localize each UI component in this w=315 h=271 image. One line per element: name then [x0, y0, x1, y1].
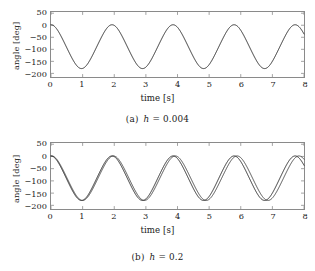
subcaption-a-symbol: h	[142, 114, 150, 124]
x-tick-label: 5	[207, 80, 212, 88]
y-tick-label: 0	[42, 21, 47, 29]
x-tick-labels-b: 012345678	[50, 212, 305, 224]
subcaption-a-tag: (a)	[126, 114, 139, 124]
curve-svg-a	[51, 12, 304, 77]
y-tick-labels-b: 500−50−100−150−200	[0, 142, 47, 210]
y-tick-label: −200	[25, 70, 48, 78]
subfigure-a: angle [deg] 500−50−100−150−200 012345678…	[0, 0, 315, 135]
x-tick-label: 6	[239, 212, 244, 220]
x-tick-label: 7	[271, 80, 276, 88]
x-tick-label: 8	[302, 80, 307, 88]
y-tick-label: −200	[25, 202, 48, 210]
subfigure-b: angle [deg] 500−50−100−150−200 012345678…	[0, 135, 315, 271]
plot-area-b	[50, 142, 305, 210]
x-tick-label: 4	[175, 212, 180, 220]
x-tick-label: 0	[47, 80, 52, 88]
curve-svg-b	[51, 143, 304, 209]
series-angle	[51, 25, 304, 69]
subcaption-a: (a) h = 0.004	[0, 114, 315, 124]
y-tick-label: −100	[25, 45, 48, 53]
plot-area-a	[50, 11, 305, 78]
plot-canvas-b	[51, 143, 304, 209]
y-tick-label: −50	[30, 33, 47, 41]
subcaption-b-value: 0.2	[169, 252, 184, 262]
y-tick-labels-a: 500−50−100−150−200	[0, 11, 47, 78]
y-tick-label: −150	[25, 190, 48, 198]
x-tick-label: 5	[207, 212, 212, 220]
subcaption-b-symbol: h	[148, 252, 156, 262]
subcaption-a-value: 0.004	[163, 114, 189, 124]
x-axis-label-a: time [s]	[0, 93, 315, 103]
x-tick-label: 6	[239, 80, 244, 88]
y-tick-label: −100	[25, 177, 48, 185]
subcaption-b-equals: =	[158, 252, 166, 262]
x-tick-label: 2	[111, 80, 116, 88]
x-tick-label: 2	[111, 212, 116, 220]
y-tick-label: 0	[42, 152, 47, 160]
x-tick-label: 4	[175, 80, 180, 88]
x-tick-label: 3	[143, 212, 148, 220]
plot-canvas-a	[51, 12, 304, 77]
y-tick-label: 50	[37, 8, 47, 16]
series-angle-reference	[51, 156, 304, 200]
x-tick-label: 0	[47, 212, 52, 220]
tick-marks	[51, 143, 304, 209]
x-tick-label: 7	[271, 212, 276, 220]
y-tick-label: −50	[30, 164, 47, 172]
x-tick-label: 3	[143, 80, 148, 88]
x-tick-label: 1	[79, 80, 84, 88]
x-axis-label-b: time [s]	[0, 225, 315, 235]
subcaption-b: (b) h = 0.2	[0, 252, 315, 262]
x-tick-labels-a: 012345678	[50, 80, 305, 92]
y-tick-label: −150	[25, 58, 48, 66]
y-tick-label: 50	[37, 139, 47, 147]
subcaption-b-tag: (b)	[131, 252, 144, 262]
tick-marks	[51, 12, 304, 77]
x-tick-label: 8	[302, 212, 307, 220]
subcaption-a-equals: =	[152, 114, 160, 124]
figure-two-subplots: angle [deg] 500−50−100−150−200 012345678…	[0, 0, 315, 271]
x-tick-label: 1	[79, 212, 84, 220]
